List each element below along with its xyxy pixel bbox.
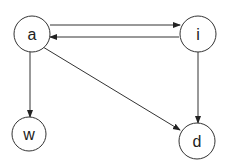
edges-group	[30, 25, 198, 130]
node-label-w: w	[22, 126, 35, 143]
node-w: w	[12, 117, 46, 151]
node-label-i: i	[196, 26, 200, 43]
node-i: i	[180, 16, 216, 52]
edge-a-to-d	[43, 47, 180, 130]
node-label-a: a	[28, 26, 37, 43]
node-a: a	[14, 16, 50, 52]
directed-graph: aiwd	[0, 0, 228, 166]
node-d: d	[179, 123, 215, 159]
node-label-d: d	[193, 133, 202, 150]
